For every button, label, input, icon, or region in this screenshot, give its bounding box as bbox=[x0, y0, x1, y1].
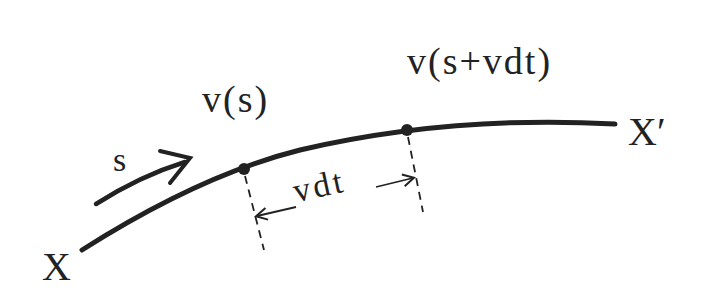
label-point2: v(s+vdt) bbox=[407, 42, 552, 80]
trajectory-curve bbox=[82, 122, 615, 250]
interval-arrow-right bbox=[376, 178, 413, 187]
diagram-canvas: X X′ s v(s) v(s+vdt) vdt bbox=[0, 0, 710, 293]
point-v-s-plus-vdt bbox=[401, 124, 413, 136]
dashed-guide-left bbox=[245, 176, 264, 250]
label-end: X′ bbox=[628, 112, 666, 152]
label-arc-param: s bbox=[113, 143, 129, 177]
label-start: X bbox=[42, 247, 71, 287]
dashed-guide-right bbox=[408, 137, 423, 212]
point-v-s bbox=[238, 163, 250, 175]
diagram-graphics bbox=[0, 0, 710, 293]
label-point1: v(s) bbox=[202, 80, 269, 118]
interval-arrow-left bbox=[257, 207, 296, 216]
